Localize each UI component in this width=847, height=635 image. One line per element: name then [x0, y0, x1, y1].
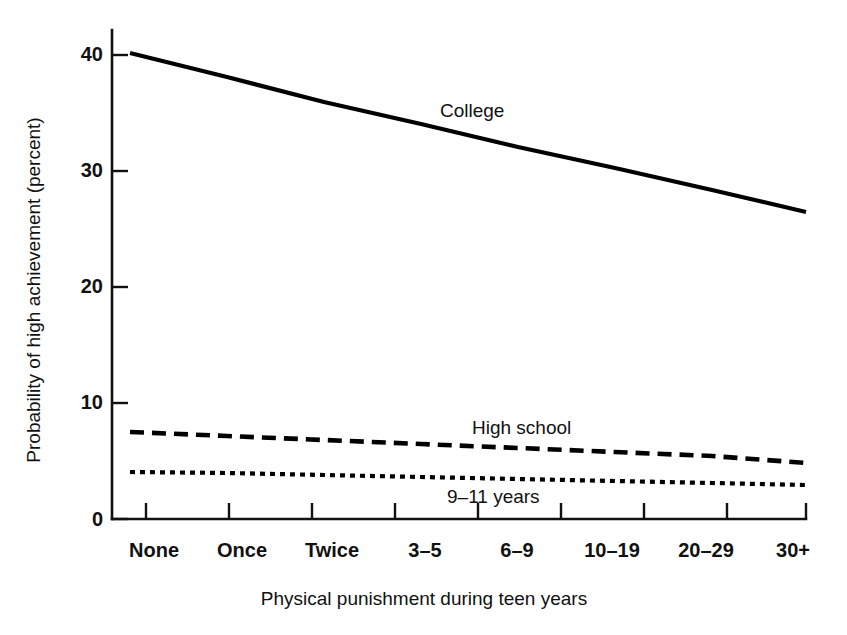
x-tick-label-none: None [129, 539, 179, 561]
x-tick-label-10-19: 10–19 [584, 539, 640, 561]
series-line-nine-eleven-years [130, 472, 806, 485]
series-line-high-school [130, 432, 806, 463]
series-label-nine-eleven-years: 9–11 years [447, 486, 540, 507]
x-axis-title: Physical punishment during teen years [261, 588, 587, 609]
line-chart: Probability of high achievement (percent… [0, 0, 847, 635]
y-axis-title: Probability of high achievement (percent… [23, 117, 44, 462]
y-tick-label-40: 40 [81, 43, 103, 65]
chart-figure: Probability of high achievement (percent… [0, 0, 847, 635]
x-tick-label-6-9: 6–9 [500, 539, 533, 561]
y-tick-label-20: 20 [81, 275, 103, 297]
x-tick-label-20-29: 20–29 [678, 539, 734, 561]
series-label-college: College [440, 100, 504, 121]
x-tick-label-twice: Twice [305, 539, 359, 561]
series-label-high-school: High school [472, 417, 571, 438]
y-tick-label-30: 30 [81, 159, 103, 181]
y-tick-label-0: 0 [92, 508, 103, 530]
y-tick-label-10: 10 [81, 391, 103, 413]
x-tick-label-once: Once [217, 539, 267, 561]
x-tick-label-3-5: 3–5 [408, 539, 441, 561]
x-tick-label-30-plus: 30+ [776, 539, 810, 561]
series-line-college [130, 53, 806, 212]
